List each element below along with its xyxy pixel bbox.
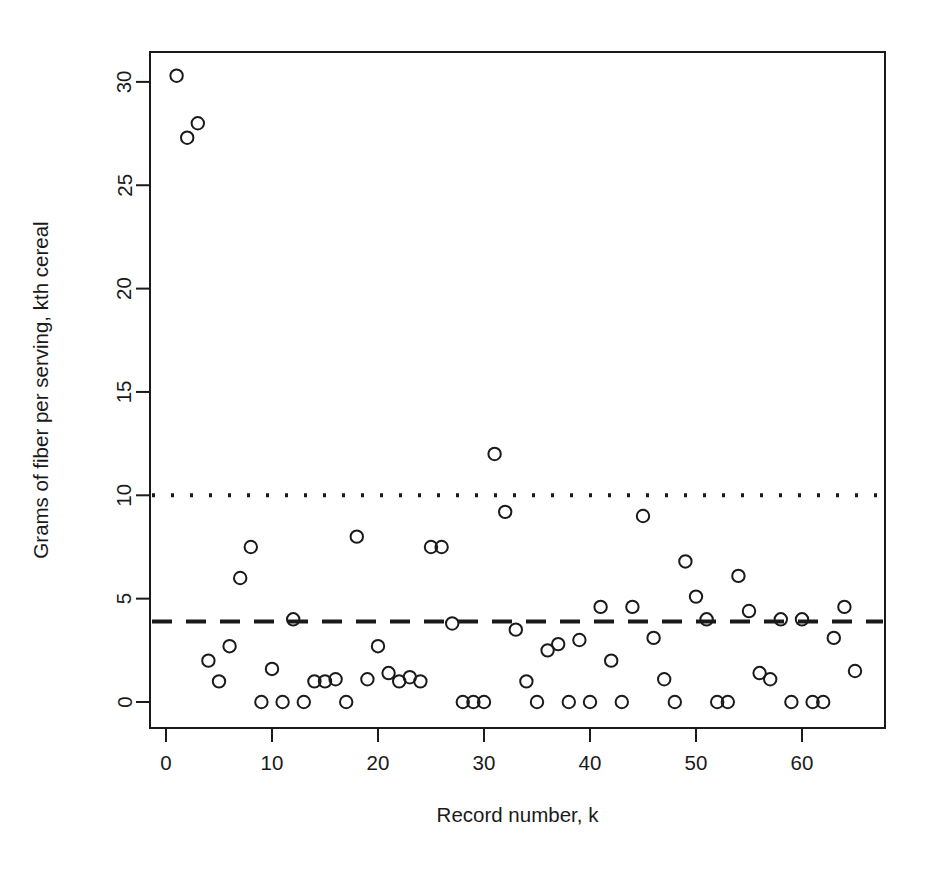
y-axis-tick-label: 5 [113,593,136,604]
x-axis-tick-label: 10 [261,751,284,774]
x-axis-title: Record number, k [437,803,600,826]
y-axis-tick-label: 15 [113,381,136,404]
x-axis-tick-label: 40 [579,751,602,774]
y-axis-tick-label: 25 [113,174,136,197]
x-axis-tick-label: 0 [160,751,171,774]
x-axis-tick-label: 20 [367,751,390,774]
y-axis-tick-label: 0 [113,696,136,707]
y-axis-title: Grams of fiber per serving, kth cereal [29,221,52,558]
y-axis-tick-label: 30 [113,70,136,93]
scatter-plot-figure: 0102030405060051015202530Record number, … [0,0,929,869]
plot-canvas: 0102030405060051015202530Record number, … [0,0,929,869]
x-axis-tick-label: 60 [791,751,814,774]
plot-frame [150,52,885,728]
y-axis-tick-label: 20 [113,277,136,300]
x-axis-tick-label: 30 [473,751,496,774]
x-axis-tick-label: 50 [685,751,708,774]
y-axis-tick-label: 10 [113,484,136,507]
